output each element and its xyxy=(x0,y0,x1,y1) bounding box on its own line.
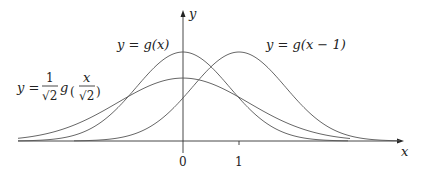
x-tick-label-0: 0 xyxy=(179,155,187,169)
label-g-x-minus-1: y = g(x − 1) xyxy=(265,37,346,52)
svg-text:√2: √2 xyxy=(79,89,94,103)
y-axis-arrow-icon xyxy=(181,10,186,17)
svg-text:√2: √2 xyxy=(42,89,57,103)
x-axis-label: x xyxy=(401,144,409,159)
diagram-canvas: x y 0 1 y = g(x) y = g(x − 1) y = 1 √2 g… xyxy=(0,0,423,176)
label-g-scaled: y = 1 √2 g ( x √2 ) xyxy=(16,70,101,103)
svg-text:y =: y = xyxy=(16,80,39,95)
y-axis-label: y xyxy=(188,6,197,21)
x-tick-label-1: 1 xyxy=(235,155,243,169)
svg-text:): ) xyxy=(96,85,101,99)
svg-text:1: 1 xyxy=(46,71,54,85)
svg-text:(: ( xyxy=(70,85,75,99)
svg-text:g: g xyxy=(60,80,68,95)
svg-text:x: x xyxy=(83,70,91,85)
label-g-x: y = g(x) xyxy=(116,37,169,52)
